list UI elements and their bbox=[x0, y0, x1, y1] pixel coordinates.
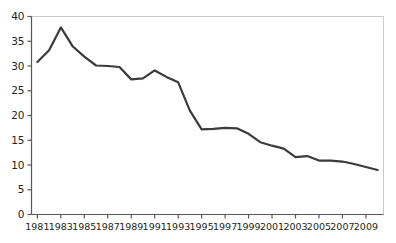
chart-svg: 0510152025303540 19811983198519871989199… bbox=[0, 0, 396, 243]
x-tick-label: 1983 bbox=[49, 221, 73, 232]
x-axis-tick-labels: 1981198319851987198919911993199519971999… bbox=[25, 221, 378, 232]
y-tick-label: 20 bbox=[11, 109, 24, 121]
plot-frame bbox=[32, 17, 384, 215]
y-tick-label: 0 bbox=[18, 208, 25, 220]
x-tick-label: 1993 bbox=[166, 221, 190, 232]
y-tick-label: 15 bbox=[11, 134, 24, 146]
series-1-line bbox=[37, 27, 377, 170]
x-tick-label: 1989 bbox=[119, 221, 143, 232]
line-chart: 0510152025303540 19811983198519871989199… bbox=[0, 0, 396, 243]
x-tick-label: 1995 bbox=[190, 221, 214, 232]
y-axis-tick-labels: 0510152025303540 bbox=[11, 10, 24, 220]
x-tick-label: 2001 bbox=[260, 221, 284, 232]
y-tick-label: 35 bbox=[11, 35, 24, 47]
y-tick-label: 25 bbox=[11, 84, 24, 96]
x-tick-label: 1987 bbox=[96, 221, 120, 232]
x-axis-ticks bbox=[37, 215, 366, 219]
x-tick-label: 2005 bbox=[307, 221, 331, 232]
y-tick-label: 30 bbox=[11, 60, 24, 72]
x-tick-label: 1991 bbox=[143, 221, 167, 232]
x-tick-label: 2003 bbox=[283, 221, 307, 232]
data-series-group bbox=[37, 27, 377, 170]
x-tick-label: 2009 bbox=[354, 221, 378, 232]
x-tick-label: 1981 bbox=[25, 221, 49, 232]
x-tick-label: 1985 bbox=[72, 221, 96, 232]
y-tick-label: 40 bbox=[11, 10, 24, 22]
x-tick-label: 1997 bbox=[213, 221, 237, 232]
y-tick-label: 10 bbox=[11, 159, 24, 171]
axis-lines bbox=[32, 17, 384, 215]
y-tick-label: 5 bbox=[18, 183, 25, 195]
x-tick-label: 2007 bbox=[330, 221, 354, 232]
x-tick-label: 1999 bbox=[236, 221, 260, 232]
